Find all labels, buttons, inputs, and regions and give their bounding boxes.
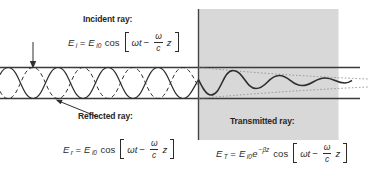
- incident-lhs: E: [68, 37, 74, 48]
- incident-ray-label: Incident ray:: [83, 14, 132, 24]
- reflected-amplitude: E: [84, 144, 90, 155]
- left-bracket: [125, 32, 129, 52]
- omega-over-c-fraction: ω c: [322, 143, 333, 163]
- reflected-arrowhead-icon: [56, 100, 63, 105]
- right-bracket: [170, 139, 174, 159]
- reflected-formula: Er = Ei0 cos ωt − ω c z: [63, 139, 175, 159]
- right-bracket: [343, 143, 347, 163]
- transmitted-formula: ET = Ei0 e−βz cos ωt − ω c z: [216, 143, 348, 163]
- incident-wave: [0, 68, 199, 99]
- reflected-lhs: E: [63, 144, 69, 155]
- transmitted-ray-label: Transmitted ray:: [230, 116, 295, 126]
- attenuation-factor: e: [252, 148, 257, 159]
- left-bracket: [293, 143, 297, 163]
- incident-formula: Ei = Ei0 cos ωt − ω c z: [68, 32, 180, 52]
- left-bracket: [120, 139, 124, 159]
- incident-amplitude: E: [88, 37, 94, 48]
- reflected-wave: [0, 68, 199, 99]
- reflected-ray-label: Reflected ray:: [78, 111, 133, 121]
- transmitted-lhs: E: [216, 148, 222, 159]
- omega-over-c-fraction: ω c: [153, 32, 164, 52]
- transmitted-amplitude: E: [239, 148, 245, 159]
- wave-reflection-diagram: Incident ray: Reflected ray: Transmitted…: [0, 0, 374, 180]
- omega-over-c-fraction: ω c: [149, 139, 160, 159]
- right-bracket: [175, 32, 179, 52]
